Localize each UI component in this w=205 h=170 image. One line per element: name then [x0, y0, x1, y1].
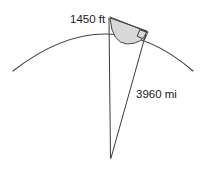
vertical-radius-line: [109, 18, 111, 158]
height-label: 1450 ft: [70, 13, 106, 25]
radius-label: 3960 mi: [136, 88, 177, 100]
geometry-diagram: 1450 ft 3960 mi: [0, 0, 205, 170]
earth-surface-arc: [13, 34, 193, 71]
shaded-sector: [110, 18, 147, 44]
